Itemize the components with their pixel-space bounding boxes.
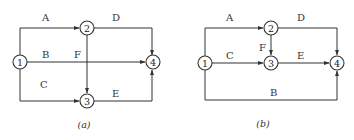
- edge-label-a-D: D: [112, 12, 120, 23]
- svg-text:3: 3: [84, 96, 90, 107]
- edge-label-a-A: A: [41, 12, 50, 23]
- edge-a-E: [94, 70, 152, 101]
- svg-text:4: 4: [334, 58, 340, 69]
- node-a-1: 1: [13, 55, 27, 69]
- edge-label-b-C: C: [226, 50, 234, 61]
- caption-a: (a): [77, 119, 90, 130]
- edge-label-b-D: D: [297, 12, 305, 23]
- node-b-1: 1: [198, 56, 212, 70]
- svg-text:4: 4: [150, 57, 156, 68]
- edge-label-b-F: F: [259, 42, 266, 53]
- node-b-4: 4: [330, 56, 344, 70]
- network-diagram-figure: A B C D E F 1 2 3 4 (a): [0, 0, 354, 140]
- edge-label-a-C: C: [40, 79, 48, 90]
- node-b-3: 3: [264, 56, 278, 70]
- edge-a-D: [94, 28, 152, 55]
- node-a-2: 2: [80, 21, 94, 35]
- edge-b-D: [278, 28, 337, 55]
- edge-label-a-F: F: [74, 49, 81, 60]
- svg-text:3: 3: [268, 58, 274, 69]
- edge-label-b-B: B: [270, 87, 277, 98]
- svg-text:2: 2: [268, 23, 274, 34]
- node-a-4: 4: [146, 55, 160, 69]
- edge-b-A: [205, 28, 263, 56]
- edge-label-b-E: E: [297, 50, 304, 61]
- svg-text:2: 2: [84, 23, 90, 34]
- edge-a-C: [20, 69, 79, 101]
- edge-label-b-A: A: [225, 12, 234, 23]
- diagram-b: A C B D E F 1 2 3 4 (b): [198, 12, 344, 129]
- svg-text:1: 1: [17, 57, 23, 68]
- edge-label-a-B: B: [42, 49, 49, 60]
- caption-b: (b): [256, 118, 270, 129]
- edge-a-A: [20, 28, 79, 55]
- edge-label-a-E: E: [112, 88, 119, 99]
- node-b-2: 2: [264, 21, 278, 35]
- diagram-a: A B C D E F 1 2 3 4 (a): [13, 12, 160, 130]
- node-a-3: 3: [80, 94, 94, 108]
- svg-text:1: 1: [202, 58, 208, 69]
